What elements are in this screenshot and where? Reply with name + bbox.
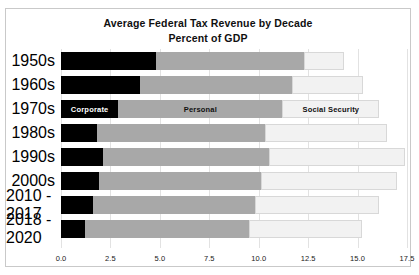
bar-segment-personal[interactable] [140, 76, 292, 94]
x-axis-tick-label: 0.0 [56, 254, 67, 263]
bar-segment-social-security[interactable] [249, 220, 362, 238]
bar-row [61, 217, 407, 241]
chart-frame: Average Federal Tax Revenue by Decade Pe… [5, 8, 411, 267]
y-axis-label: 1950s [6, 49, 61, 73]
y-axis-label-text: 1990s [11, 148, 55, 166]
y-axis-label: 2018 - 2020 [6, 217, 61, 241]
stacked-bar[interactable] [61, 52, 344, 70]
plot-area: CorporatePersonalSocial Security [61, 49, 407, 248]
bar-row [61, 73, 407, 97]
bar-segment-corporate[interactable] [61, 124, 97, 142]
bar-row [61, 49, 407, 73]
bar-segment-corporate[interactable]: Corporate [61, 100, 118, 118]
bar-segment-personal[interactable] [85, 220, 249, 238]
x-axis-tick-label: 10.0 [251, 254, 266, 263]
bar-row: CorporatePersonalSocial Security [61, 97, 407, 121]
bar-segment-social-security[interactable] [265, 124, 388, 142]
bar-segment-corporate[interactable] [61, 76, 140, 94]
y-axis-label: 1990s [6, 145, 61, 169]
chart-title-block: Average Federal Tax Revenue by Decade Pe… [6, 16, 410, 46]
gridline [407, 49, 408, 248]
bar-row [61, 169, 407, 193]
y-axis-label-text: 1950s [11, 52, 55, 70]
bar-segment-personal[interactable] [103, 148, 269, 166]
bar-segment-corporate[interactable] [61, 172, 99, 190]
legend-label-corporate: Corporate [71, 105, 109, 114]
bar-row [61, 121, 407, 145]
bar-segment-corporate[interactable] [61, 196, 93, 214]
y-axis-label-text: 1960s [11, 76, 55, 94]
bar-segment-personal[interactable]: Personal [118, 100, 282, 118]
x-axis-tick-label: 5.0 [154, 254, 165, 263]
x-axis: 0.02.55.07.510.012.515.017.5 [61, 248, 407, 268]
y-axis-label-text: 1980s [11, 124, 55, 142]
bar-segment-social-security[interactable] [261, 172, 397, 190]
bar-segment-personal[interactable] [156, 52, 304, 70]
chart-title-line-1: Average Federal Tax Revenue by Decade [6, 16, 410, 31]
bar-segment-corporate[interactable] [61, 220, 85, 238]
legend-label-personal: Personal [184, 105, 217, 114]
stacked-bar[interactable] [61, 76, 364, 94]
bar-segment-social-security[interactable] [292, 76, 363, 94]
bar-row [61, 193, 407, 217]
x-axis-tick-label: 17.5 [400, 254, 415, 263]
y-axis-label: 1960s [6, 73, 61, 97]
y-axis-labels: 1950s1960s1970s1980s1990s2000s2010 - 201… [6, 49, 61, 248]
bar-segment-personal[interactable] [99, 172, 261, 190]
bar-row [61, 145, 407, 169]
x-axis-tick-label: 12.5 [301, 254, 316, 263]
stacked-bar[interactable] [61, 124, 387, 142]
stacked-bar[interactable]: CorporatePersonalSocial Security [61, 100, 379, 118]
y-axis-label: 1970s [6, 97, 61, 121]
x-axis-tick-label: 2.5 [105, 254, 116, 263]
y-axis-label-text: 1970s [11, 100, 55, 118]
bar-segment-social-security[interactable] [269, 148, 405, 166]
bar-segment-corporate[interactable] [61, 148, 103, 166]
bar-segment-social-security[interactable] [255, 196, 380, 214]
y-axis-label-text: 2018 - 2020 [6, 211, 55, 247]
y-axis-label: 1980s [6, 121, 61, 145]
bar-segment-personal[interactable] [93, 196, 255, 214]
stacked-bar[interactable] [61, 172, 397, 190]
bar-segment-social-security[interactable] [304, 52, 344, 70]
stacked-bar[interactable] [61, 196, 379, 214]
x-axis-tick-label: 7.5 [204, 254, 215, 263]
stacked-bar[interactable] [61, 220, 362, 238]
bar-segment-personal[interactable] [97, 124, 265, 142]
bar-segment-corporate[interactable] [61, 52, 156, 70]
legend-label-social-security: Social Security [302, 105, 359, 114]
chart-title-line-2: Percent of GDP [6, 31, 410, 46]
bar-segment-social-security[interactable]: Social Security [282, 100, 379, 118]
stacked-bar[interactable] [61, 148, 405, 166]
x-axis-tick-label: 15.0 [350, 254, 365, 263]
